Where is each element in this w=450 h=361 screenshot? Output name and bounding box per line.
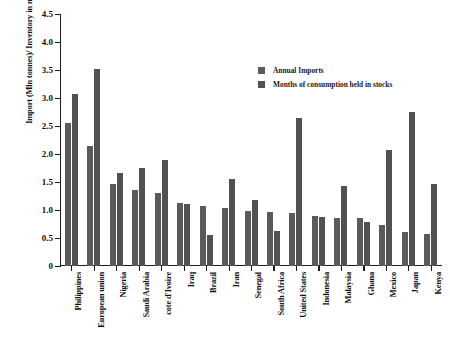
bar (200, 206, 206, 266)
bar (177, 203, 183, 266)
bar (72, 94, 78, 266)
y-tick-label: 3.0 (42, 93, 53, 103)
y-tick-mark (55, 238, 61, 239)
y-tick-label: 4.0 (42, 37, 53, 47)
bar (409, 112, 415, 266)
bar-group (424, 14, 437, 266)
bar (334, 218, 340, 266)
y-axis-title: Import (Mln tonnes)/ Inventory in months… (25, 0, 34, 152)
y-tick-label: 0 (49, 261, 54, 271)
x-tick-mark (273, 266, 274, 271)
bar (117, 173, 123, 266)
x-tick-mark (386, 266, 387, 271)
bar (94, 69, 100, 266)
y-tick-label: 3.5 (42, 65, 53, 75)
bar-group (245, 14, 258, 266)
bar-group (87, 14, 100, 266)
x-tick-mark (363, 266, 364, 271)
y-tick-label: 2.0 (42, 149, 53, 159)
x-tick-label: Indonesia (322, 272, 331, 306)
bar (252, 200, 258, 266)
y-tick-label: 4.5 (42, 9, 53, 19)
x-tick-mark (206, 266, 207, 271)
x-tick-mark (341, 266, 342, 271)
x-tick-mark (71, 266, 72, 271)
bar (431, 184, 437, 266)
x-tick-label: Iran (232, 272, 241, 287)
x-tick-mark (116, 266, 117, 271)
bar (222, 208, 228, 266)
bar-group (379, 14, 392, 266)
bar (110, 184, 116, 266)
x-tick-mark (184, 266, 185, 271)
legend-label: Annual Imports (273, 66, 324, 75)
y-tick-mark (55, 182, 61, 183)
bar (65, 123, 71, 266)
x-tick-label: Ghana (367, 272, 376, 295)
y-tick-mark (55, 14, 61, 15)
bar (312, 216, 318, 266)
bar-group (402, 14, 415, 266)
bar-group (200, 14, 213, 266)
y-tick-mark (55, 70, 61, 71)
y-axis-line (60, 14, 61, 266)
x-tick-label: Nigeria (119, 272, 128, 297)
bar-group (65, 14, 78, 266)
bar-chart: Import (Mln tonnes)/ Inventory in months… (0, 0, 450, 361)
bar (207, 235, 213, 266)
x-tick-label: Senegal (254, 272, 263, 298)
y-tick-label: 1.0 (42, 205, 53, 215)
x-tick-mark (139, 266, 140, 271)
y-tick-mark (55, 154, 61, 155)
legend-item-months-of-consumption: Months of consumption held in stocks (258, 80, 392, 89)
y-tick-mark (55, 266, 61, 267)
bar (296, 118, 302, 266)
bar (424, 234, 430, 266)
y-tick-mark (55, 98, 61, 99)
bar (184, 204, 190, 266)
legend-swatch-icon (258, 81, 265, 88)
x-tick-label: Philippines (74, 272, 83, 310)
bar (319, 217, 325, 266)
y-tick-label: 1.5 (42, 177, 53, 187)
bar (357, 218, 363, 266)
bar-group (110, 14, 123, 266)
x-tick-mark (296, 266, 297, 271)
bar-group (267, 14, 280, 266)
x-tick-label: Japan (411, 272, 420, 293)
x-tick-mark (251, 266, 252, 271)
y-tick-mark (55, 126, 61, 127)
legend-item-annual-imports: Annual Imports (258, 66, 392, 75)
y-tick-label: 0.5 (42, 233, 53, 243)
y-tick-label: 2.5 (42, 121, 53, 131)
bar-group (289, 14, 302, 266)
x-tick-label: Iraq (187, 272, 196, 287)
x-tick-mark (318, 266, 319, 271)
legend-label: Months of consumption held in stocks (273, 80, 392, 89)
bar-group (177, 14, 190, 266)
bar (379, 225, 385, 266)
x-tick-label: Malaysia (344, 272, 353, 303)
x-tick-mark (431, 266, 432, 271)
bar (289, 213, 295, 266)
bar (155, 193, 161, 266)
x-tick-mark (94, 266, 95, 271)
bar (341, 186, 347, 266)
bar (364, 222, 370, 266)
bar (267, 212, 273, 266)
bar (87, 146, 93, 266)
bar (162, 160, 168, 266)
x-tick-label: United States (299, 272, 308, 318)
bar (139, 168, 145, 266)
bar (245, 211, 251, 266)
chart-legend: Annual Imports Months of consumption hel… (258, 66, 392, 94)
bar-group (312, 14, 325, 266)
bar-group (222, 14, 235, 266)
x-tick-label: Kenya (434, 272, 443, 295)
y-tick-mark (55, 210, 61, 211)
bar (386, 150, 392, 266)
bar-group (357, 14, 370, 266)
bar-group (155, 14, 168, 266)
x-tick-label: European union (97, 272, 106, 328)
legend-swatch-icon (258, 67, 265, 74)
